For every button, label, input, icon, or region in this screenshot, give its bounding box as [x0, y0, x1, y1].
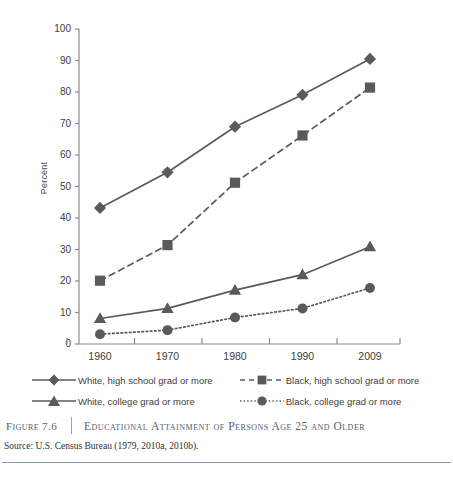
series-line-triangle — [100, 247, 370, 319]
legend-item-black-high-school[interactable]: Black, high school grad or more — [238, 373, 430, 387]
svg-text:1990: 1990 — [291, 350, 315, 362]
y-axis-title: Percent — [39, 162, 49, 194]
square-marker-icon — [238, 373, 286, 387]
chart-legend: White, high school grad or more Black, h… — [0, 370, 453, 414]
legend-label: White, high school grad or more — [78, 375, 213, 386]
svg-text:60: 60 — [60, 149, 72, 160]
legend-item-white-college[interactable]: White, college grad or more — [30, 394, 238, 408]
data-point-circle — [298, 303, 308, 313]
legend-label: Black, high school grad or more — [286, 375, 420, 386]
figure-source: Source: U.S. Census Bureau (1979, 2010a,… — [0, 436, 453, 451]
svg-text:30: 30 — [60, 244, 72, 255]
data-point-diamond — [161, 166, 173, 178]
data-point-circle — [163, 325, 173, 335]
svg-text:1970: 1970 — [156, 350, 180, 362]
legend-item-black-college[interactable]: Black, college grad or more — [238, 394, 430, 408]
line-chart: 0102030405060708090100196019701980199020… — [0, 0, 453, 368]
triangle-marker-icon — [30, 394, 78, 408]
data-point-square — [365, 82, 375, 92]
svg-text:70: 70 — [60, 118, 72, 129]
data-point-circle — [230, 313, 240, 323]
svg-text:2009: 2009 — [358, 350, 382, 362]
data-point-triangle — [364, 240, 376, 251]
legend-row: White, college grad or more Black, colle… — [30, 391, 430, 411]
svg-text:1980: 1980 — [223, 350, 247, 362]
data-point-square — [297, 130, 307, 140]
data-point-diamond — [229, 121, 241, 133]
legend-item-white-high-school[interactable]: White, high school grad or more — [30, 373, 238, 387]
bottom-rule — [2, 462, 451, 463]
svg-text:20: 20 — [60, 275, 72, 286]
data-point-square — [95, 276, 105, 286]
svg-text:100: 100 — [54, 23, 71, 34]
svg-text:1960: 1960 — [88, 350, 112, 362]
figure-caption-block: Figure 7.6 Educational Attainment of Per… — [0, 414, 453, 451]
svg-text:90: 90 — [60, 55, 72, 66]
data-point-diamond — [296, 89, 308, 101]
legend-row: White, high school grad or more Black, h… — [30, 370, 430, 390]
caption-row: Figure 7.6 Educational Attainment of Per… — [0, 414, 453, 436]
figure-number: Figure 7.6 — [6, 420, 57, 432]
svg-text:0: 0 — [65, 338, 71, 349]
legend-label: Black, college grad or more — [286, 396, 402, 407]
circle-marker-icon — [238, 394, 286, 408]
figure-title: Educational Attainment of Persons Age 25… — [84, 420, 365, 432]
data-point-circle — [365, 283, 375, 293]
data-point-diamond — [94, 202, 106, 214]
data-point-square — [230, 178, 240, 188]
series-line-circle — [100, 288, 370, 334]
data-point-triangle — [296, 269, 308, 280]
data-point-diamond — [364, 53, 376, 65]
data-point-circle — [95, 329, 105, 339]
svg-text:10: 10 — [60, 307, 72, 318]
diamond-marker-icon — [30, 373, 78, 387]
svg-text:40: 40 — [60, 212, 72, 223]
data-point-square — [162, 240, 172, 250]
svg-text:80: 80 — [60, 86, 72, 97]
svg-text:50: 50 — [60, 181, 72, 192]
caption-divider — [71, 417, 72, 434]
figure-container: 0102030405060708090100196019701980199020… — [0, 0, 453, 478]
legend-label: White, college grad or more — [78, 396, 195, 407]
chart-area: 0102030405060708090100196019701980199020… — [0, 0, 453, 368]
